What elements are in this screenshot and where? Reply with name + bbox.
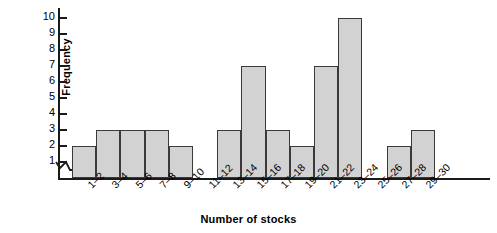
- plot-area: 12345678910: [58, 8, 490, 180]
- y-axis-tick-label: 2: [33, 138, 55, 150]
- y-axis-tick-label: 10: [33, 10, 55, 22]
- y-axis-tick-label: 5: [33, 90, 55, 102]
- histogram-bar: [241, 66, 265, 178]
- y-axis-tick-label: 9: [33, 26, 55, 38]
- y-axis-tick-label: 8: [33, 42, 55, 54]
- histogram-bar: [338, 18, 362, 178]
- bars-layer: [58, 8, 490, 180]
- y-axis-tick-label: 1: [33, 154, 55, 166]
- y-axis-tick-label: 3: [33, 122, 55, 134]
- y-axis-tick-label: 7: [33, 58, 55, 70]
- y-axis-tick-label: 4: [33, 106, 55, 118]
- x-axis-tick-labels: 1–23–45–67–89–1011–1213–1415–1617–1819–2…: [58, 182, 490, 216]
- y-axis-tick-label: 6: [33, 74, 55, 86]
- x-axis-title: Number of stocks: [0, 213, 497, 225]
- histogram-chart: Frequency 12345678910 1–23–45–67–89–1011…: [0, 0, 497, 233]
- histogram-bar: [314, 66, 338, 178]
